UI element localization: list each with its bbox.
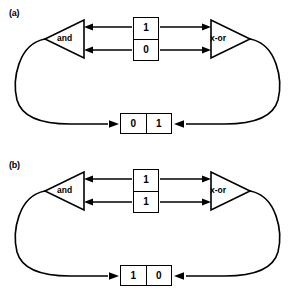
arrow-top-to-xor-head [202,23,211,30]
and-gate-label: and [57,34,72,43]
figure-root: (a) [0,0,296,305]
top-register-cell-0: 1 [134,18,158,39]
bottom-register-cell-1: 1 [146,114,172,133]
arrow-bottom-to-xor-head [202,46,211,53]
panel-a: (a) [0,0,296,152]
left-loop-path [15,39,108,124]
xor-gate-label: x-or [210,186,226,195]
xor-gate-label: x-or [210,34,226,43]
bottom-register: 0 1 [120,113,172,134]
bottom-register-cell-1: 0 [146,266,172,285]
arrow-top-to-and-head [84,23,93,30]
left-loop-arrow-head [109,272,119,280]
top-register-cell-1: 0 [134,39,158,61]
left-loop-arrow-head [109,120,119,128]
top-register-cell-0: 1 [134,170,158,191]
arrow-top-to-xor-head [202,175,211,182]
right-loop-path [186,191,280,276]
arrow-bottom-to-and-head [84,198,93,205]
arrow-bottom-to-xor-head [202,198,211,205]
right-loop-path [186,39,280,124]
and-gate-label: and [57,186,72,195]
left-loop-path [15,191,108,276]
right-loop-arrow-head [174,272,184,280]
bottom-register-cell-0: 1 [121,266,146,285]
top-register: 1 1 [133,169,159,213]
right-loop-arrow-head [174,120,184,128]
top-register-cell-1: 1 [134,191,158,213]
arrow-top-to-and-head [84,175,93,182]
top-register: 1 0 [133,17,159,61]
arrow-bottom-to-and-head [84,46,93,53]
bottom-register-cell-0: 0 [121,114,146,133]
bottom-register: 1 0 [120,265,172,286]
panel-b: (b) and x-or 1 1 [0,152,296,304]
